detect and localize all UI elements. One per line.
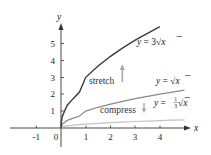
compress-annotation: compress: [100, 105, 136, 115]
y-axis-arrow-icon: [59, 23, 64, 30]
y-tick-label: 5: [51, 39, 56, 49]
x-tick-label: 0: [54, 132, 59, 142]
svg-text:y =: y =: [153, 98, 166, 108]
svg-text:1: 1: [174, 96, 177, 102]
x-tick-label: 1: [84, 132, 89, 142]
label-compress-equation: y = 1 3 √x: [153, 96, 190, 109]
stretch-annotation: stretch: [89, 76, 115, 86]
y-tick-labels: 1 2 3 4 5: [51, 39, 56, 117]
down-arrow-icon: [142, 103, 146, 113]
x-axis-label: x: [193, 123, 199, 133]
y-tick-label: 1: [51, 106, 56, 116]
x-tick-label: 3: [133, 132, 138, 142]
y-tick-label: 3: [51, 73, 56, 83]
y-tick-label: 2: [51, 89, 56, 99]
label-stretch-equation: y = 3√x: [136, 37, 166, 47]
svg-text:3: 3: [174, 103, 177, 109]
curve-compress: [61, 120, 185, 128]
x-tick-label: 4: [158, 132, 163, 142]
x-axis-arrow-icon: [184, 126, 191, 131]
chart-figure: -1 0 1 2 3 4 1 2 3 4 5 y x y = 3√x y = √…: [0, 0, 211, 155]
x-tick-label: 2: [108, 132, 113, 142]
svg-text:√x: √x: [178, 98, 188, 108]
y-tick-label: 4: [51, 56, 56, 66]
x-tick-label: -1: [33, 132, 41, 142]
x-tick-labels: -1 0 1 2 3 4: [33, 132, 163, 142]
label-base-equation: y = √x: [155, 76, 181, 86]
up-arrow-icon: [120, 64, 125, 82]
y-axis-label: y: [56, 12, 62, 22]
